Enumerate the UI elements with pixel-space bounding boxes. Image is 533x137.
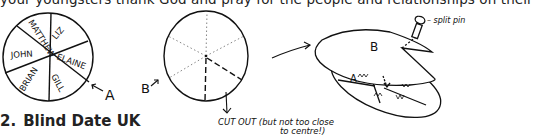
label-b: B: [141, 81, 150, 96]
assembly: [315, 15, 449, 131]
disc-b: [164, 11, 248, 101]
name-liz: LIZ: [50, 25, 66, 42]
arrow-assembly: [272, 42, 310, 58]
assembly-label-a: A: [350, 73, 357, 84]
arrow-b: [151, 80, 158, 86]
arrow-a: [92, 84, 103, 91]
name-gill: GILL: [49, 72, 67, 93]
name-john: JOHN: [9, 48, 33, 60]
name-brian: BRIAN: [17, 65, 39, 93]
split-pin-icon: [412, 15, 426, 39]
assembly-label-b: B: [370, 40, 378, 54]
label-a: A: [105, 87, 115, 103]
cutout-note-line2: to centre!): [280, 126, 325, 136]
split-pin-label: – split pin: [427, 16, 465, 25]
